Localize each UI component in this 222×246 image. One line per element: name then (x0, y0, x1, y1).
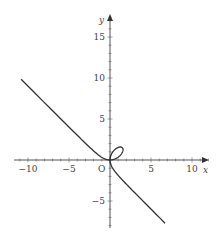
folium-plot: −10−5510−551015 x y O (0, 0, 222, 246)
origin-label: O (98, 164, 105, 174)
x-axis-label: x (203, 165, 208, 175)
x-tick-label: −10 (19, 164, 38, 174)
x-tick-label: 5 (148, 164, 154, 174)
x-tick-label: −5 (62, 164, 76, 174)
y-tick-label: 5 (99, 114, 105, 124)
y-tick-label: 15 (94, 32, 106, 42)
x-axis-arrow-icon (202, 157, 209, 163)
y-tick-label: −5 (92, 196, 106, 206)
y-tick-label: 10 (94, 73, 106, 83)
x-tick-label: 10 (186, 164, 198, 174)
axis-ticks (20, 21, 209, 226)
y-axis-arrow-icon (107, 14, 113, 21)
y-axis-label: y (98, 15, 105, 25)
